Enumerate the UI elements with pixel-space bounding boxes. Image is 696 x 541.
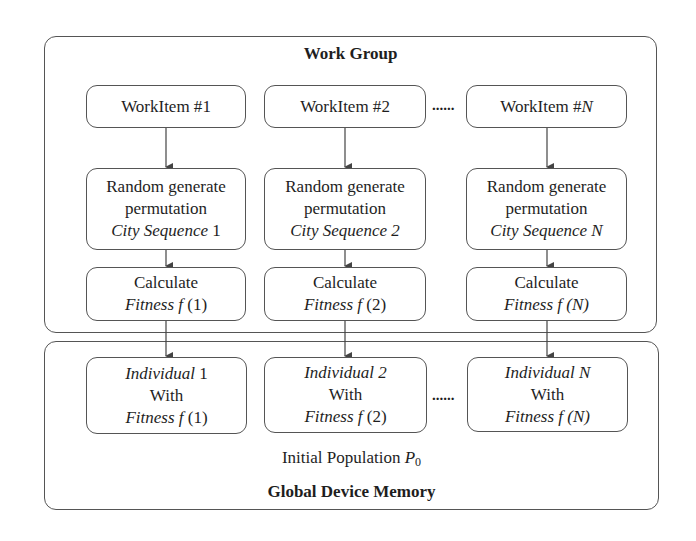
initial-population-label: Initial Population P0 [44,448,659,468]
fitness-arg: (1) [187,295,207,314]
fitness-arg: (1) [188,408,208,427]
individual-label: Individual [125,364,195,383]
with-label: With [329,384,362,406]
workitem-n-box: WorkItem #N [466,85,627,128]
workitem-index: 2 [381,97,390,116]
with-label: With [150,385,183,407]
with-label: With [531,384,564,406]
fitness-arg: (N) [567,407,590,426]
calculate-label: Calculate [313,272,377,294]
generate-line1: Random generate [285,176,404,198]
city-sequence-label: City Sequence [290,221,387,240]
population-symbol: P [405,448,415,467]
generate-permutation-2-box: Random generate permutation City Sequenc… [264,168,426,250]
individual-n-box: Individual N With Fitness f (N) [467,357,628,432]
fitness-label: Fitness f [125,295,183,314]
workitem-1-box: WorkItem #1 [86,85,246,128]
generate-line1: Random generate [106,176,225,198]
generate-line2: permutation [304,198,386,220]
city-sequence-index: 2 [387,221,400,240]
calculate-label: Calculate [514,272,578,294]
fitness-arg: (2) [367,407,387,426]
city-sequence-label: City Sequence [111,221,208,240]
fitness-arg: (2) [366,295,386,314]
workitem-label: WorkItem # [500,97,581,116]
global-memory-title: Global Device Memory [44,482,659,502]
generate-line1: Random generate [487,176,606,198]
workitem-label: WorkItem # [121,97,202,116]
generate-line2: permutation [505,198,587,220]
workitem-label: WorkItem # [300,97,381,116]
fitness-label: Fitness f [505,407,563,426]
city-sequence-index: 1 [208,221,221,240]
workitem-2-box: WorkItem #2 [264,85,426,128]
generate-permutation-n-box: Random generate permutation City Sequenc… [466,168,627,250]
calculate-fitness-2-box: Calculate Fitness f (2) [264,267,426,321]
individual-1-box: Individual 1 With Fitness f (1) [86,357,247,434]
generate-permutation-1-box: Random generate permutation City Sequenc… [86,168,246,250]
fitness-label: Fitness f [504,295,562,314]
calculate-fitness-n-box: Calculate Fitness f (N) [466,267,627,321]
individual-label: Individual [304,363,374,382]
fitness-label: Fitness f [125,408,183,427]
workitem-index: 1 [202,97,211,116]
individual-index: 2 [374,363,387,382]
workitem-index: N [581,97,592,116]
fitness-label: Fitness f [304,407,362,426]
calculate-label: Calculate [134,272,198,294]
fitness-label: Fitness f [304,295,362,314]
population-subscript: 0 [415,455,421,469]
individual-ellipsis: ...... [432,390,462,400]
workitem-ellipsis: ...... [432,100,462,110]
calculate-fitness-1-box: Calculate Fitness f (1) [86,267,246,321]
individual-2-box: Individual 2 With Fitness f (2) [264,357,427,433]
individual-index: N [575,363,591,382]
individual-index: 1 [195,364,208,383]
fitness-arg: (N) [566,295,589,314]
individual-label: Individual [505,363,575,382]
city-sequence-index: N [587,221,603,240]
population-text: Initial Population [282,448,405,467]
city-sequence-label: City Sequence [490,221,587,240]
generate-line2: permutation [125,198,207,220]
